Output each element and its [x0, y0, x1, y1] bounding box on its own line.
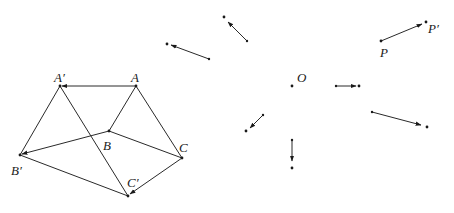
vector-upper-left-end	[166, 43, 169, 46]
label-c: C	[179, 140, 188, 155]
vector-right	[372, 112, 421, 125]
triangle-abc-prime	[20, 86, 128, 196]
point-b	[108, 130, 111, 133]
vector-b-to-b-prime	[22, 131, 109, 154]
triangle-abc	[109, 86, 182, 158]
label-b-prime: B′	[11, 163, 22, 178]
edge-b-prime-c-prime	[20, 155, 128, 196]
vector-upper-middle-start	[246, 40, 248, 42]
label-c-prime: C′	[127, 175, 139, 190]
vector-vertical-start	[291, 139, 293, 141]
point-b-prime	[19, 154, 22, 157]
point-c-prime	[127, 195, 130, 198]
point-a	[135, 85, 138, 88]
vector-upper-middle-end	[223, 16, 226, 19]
vector-diagonal-small-start	[262, 114, 264, 116]
vector-horizontal-start	[335, 85, 337, 87]
vector-vertical-end	[291, 167, 294, 170]
point-a-prime	[59, 85, 62, 88]
vector-right-end	[426, 126, 429, 129]
label-a-prime: A′	[53, 70, 65, 85]
label-p-prime: P′	[427, 21, 439, 36]
label-o: O	[297, 70, 307, 85]
edge-bc	[109, 131, 182, 158]
point-p	[380, 40, 383, 43]
vector-diagonal-small	[250, 115, 263, 128]
label-b: B	[103, 138, 111, 153]
edge-ab	[109, 86, 136, 131]
vector-right-start	[371, 111, 373, 113]
vector-upper-left	[171, 45, 209, 59]
label-a: A	[130, 70, 139, 85]
vector-p-to-p-prime	[381, 24, 422, 41]
edge-a-prime-b-prime	[20, 86, 60, 155]
vector-upper-middle	[228, 22, 247, 41]
point-c	[181, 157, 184, 160]
point-o	[291, 85, 294, 88]
label-p: P	[379, 45, 388, 60]
vector-diagonal-small-end	[245, 130, 248, 133]
vector-horizontal-end	[358, 85, 361, 88]
translation-diagram: A′ A B B′ C C′ P P′ O	[0, 0, 454, 213]
edge-ac	[136, 86, 182, 158]
vector-upper-left-start	[208, 58, 210, 60]
point-p-prime	[425, 21, 428, 24]
